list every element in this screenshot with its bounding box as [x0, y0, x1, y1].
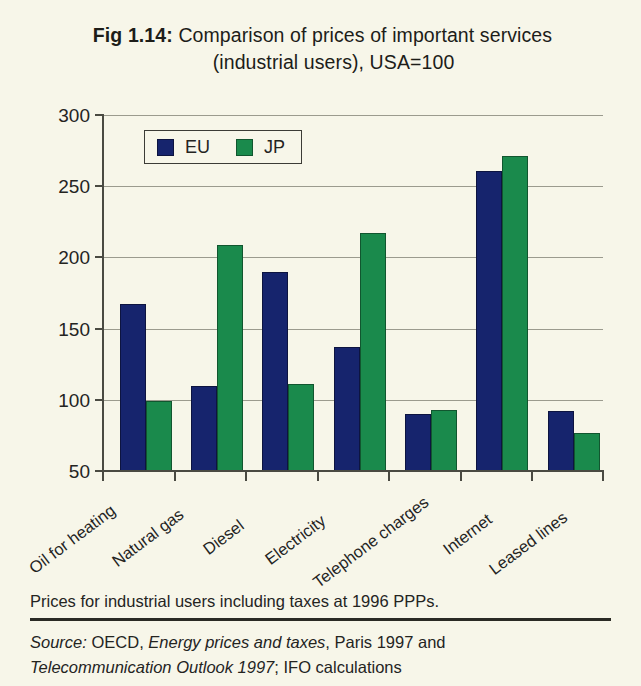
x-tick-7 [602, 470, 604, 481]
gridline-300 [103, 115, 603, 116]
gridline-250 [103, 186, 603, 187]
source-italic-1: Energy prices and taxes [148, 633, 325, 651]
footnote-divider [30, 618, 611, 621]
x-label-telephone-charges: Telephone charges [310, 493, 431, 590]
bar-eu-leased-lines [548, 411, 574, 471]
y-label-250: 250 [38, 177, 90, 196]
bar-eu-oil-for-heating [120, 304, 146, 471]
x-label-leased-lines: Leased lines [486, 509, 570, 578]
y-tick-150 [95, 328, 104, 330]
x-tick-0 [102, 470, 104, 481]
x-label-internet: Internet [440, 511, 495, 558]
legend-label-jp: JP [264, 138, 285, 156]
legend-item-eu: EU [157, 138, 210, 156]
y-label-50: 50 [38, 462, 90, 481]
bar-eu-electricity [334, 347, 360, 471]
legend-label-eu: EU [185, 138, 210, 156]
y-axis-labels: 300 250 200 150 100 50 [38, 0, 90, 580]
figure-container: Fig 1.14: Comparison of prices of import… [0, 0, 641, 686]
x-tick-5 [460, 470, 462, 481]
x-tick-2 [245, 470, 247, 481]
source-text-1: OECD, [87, 633, 148, 651]
x-label-electricity: Electricity [262, 512, 328, 568]
bar-jp-electricity [360, 233, 386, 471]
chart-plot: 300 250 200 150 100 50 Oil for heating N… [0, 0, 641, 580]
y-label-300: 300 [38, 106, 90, 125]
source-text-2: , Paris 1997 and [325, 633, 445, 651]
bar-jp-leased-lines [574, 433, 600, 471]
source-italic-2: Telecommunication Outlook 1997 [30, 658, 274, 676]
y-tick-200 [95, 256, 104, 258]
bar-jp-diesel [288, 384, 314, 471]
bar-jp-telephone-charges [431, 410, 457, 471]
x-axis-line [102, 470, 604, 472]
x-tick-4 [388, 470, 390, 481]
x-label-diesel: Diesel [200, 517, 247, 558]
x-tick-3 [317, 470, 319, 481]
legend-swatch-eu-icon [157, 139, 174, 156]
x-tick-6 [531, 470, 533, 481]
chart-legend: EU JP [144, 130, 302, 164]
x-label-natural-gas: Natural gas [109, 506, 186, 570]
plot-area [103, 115, 603, 471]
bar-eu-diesel [262, 272, 288, 471]
figure-source: Source: OECD, Energy prices and taxes, P… [30, 630, 620, 680]
source-prefix: Source: [30, 633, 87, 651]
bar-eu-natural-gas [191, 386, 217, 471]
legend-item-jp: JP [236, 138, 285, 156]
source-text-3: ; IFO calculations [274, 658, 401, 676]
y-tick-250 [95, 185, 104, 187]
bar-jp-natural-gas [217, 245, 243, 471]
gridline-200 [103, 257, 603, 258]
x-tick-1 [174, 470, 176, 481]
bar-eu-telephone-charges [405, 414, 431, 471]
bar-jp-internet [502, 156, 528, 471]
figure-footnote: Prices for industrial users including ta… [30, 592, 610, 610]
gridline-150 [103, 329, 603, 330]
y-tick-100 [95, 399, 104, 401]
bar-eu-internet [476, 171, 502, 471]
y-tick-300 [95, 114, 104, 116]
legend-swatch-jp-icon [236, 139, 253, 156]
y-label-200: 200 [38, 248, 90, 267]
y-axis-line [102, 114, 104, 472]
y-label-100: 100 [38, 391, 90, 410]
y-label-150: 150 [38, 320, 90, 339]
bar-jp-oil-for-heating [146, 401, 172, 471]
